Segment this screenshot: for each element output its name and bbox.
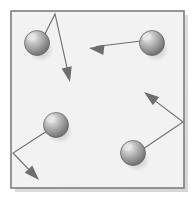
- sphere-body: [121, 141, 146, 166]
- sphere-body: [44, 113, 69, 138]
- particle-diagram: [0, 0, 196, 204]
- sphere-body: [25, 31, 50, 56]
- sphere-body: [140, 31, 165, 56]
- diagram-canvas: [0, 0, 196, 204]
